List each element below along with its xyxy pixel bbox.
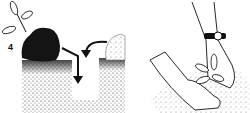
wristwatch-icon [204, 32, 226, 40]
ground-with-hole [22, 58, 125, 113]
step-number-label: 4 [8, 42, 13, 52]
seedling-icon [1, 0, 33, 35]
loose-soil-mound [106, 34, 125, 60]
illustration-drawing [0, 0, 250, 113]
planting-illustration: 4 [0, 0, 250, 113]
arrow-curved-icon [81, 42, 107, 58]
soil-clump [22, 28, 60, 62]
